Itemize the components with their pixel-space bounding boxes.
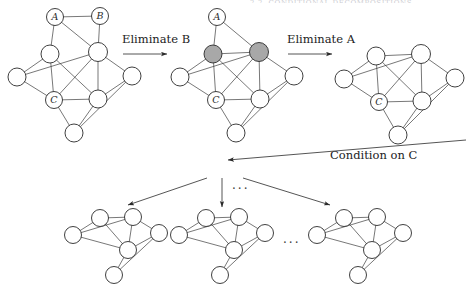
graph-after-eliminating-a-edges [344, 54, 455, 135]
graph-node [171, 68, 189, 86]
graph-node [89, 43, 108, 62]
graph-node [364, 242, 381, 259]
graph-node [41, 45, 59, 63]
graph-node [446, 69, 464, 87]
graph-node [285, 67, 303, 85]
graph-node [8, 68, 26, 86]
conditioned-graph-1-nodes [65, 209, 168, 284]
graph-node [212, 267, 229, 284]
label-eliminate-b: Eliminate B [122, 32, 190, 46]
graph-node [151, 225, 168, 242]
original-graph-nodes: ABC [8, 8, 141, 143]
graph-node [369, 209, 386, 226]
arrow-branch-left [128, 178, 207, 205]
graph-node [257, 225, 274, 242]
graph-after-eliminating-b-nodes: AC [171, 9, 303, 143]
graph-after-eliminating-b-edges [180, 17, 294, 133]
node-label-A: A [213, 11, 221, 22]
conditioned-graph-2-nodes [171, 209, 274, 284]
graph-node [204, 45, 222, 63]
node-label-C: C [50, 94, 58, 105]
graph-node [123, 67, 141, 85]
graph-node [106, 267, 123, 284]
conditioned-graph-3-nodes [309, 209, 412, 284]
graph-node [120, 242, 137, 259]
graph-node [198, 210, 215, 227]
graph-node [227, 124, 245, 142]
graph-node [125, 209, 142, 226]
graph-node [89, 90, 107, 108]
node-label-B: B [96, 10, 104, 21]
vertical-branch-ellipsis: ... [232, 178, 249, 192]
graph-diagram-svg: ABCACC [0, 0, 466, 288]
graph-node [226, 242, 243, 259]
graph-node [171, 227, 188, 244]
figure-canvas: 2.2. CONDITIONAL DECOMPOSITIONS ABCACC E… [0, 0, 466, 288]
graph-node [65, 124, 83, 142]
node-label-A: A [51, 11, 59, 22]
graph-node [92, 210, 109, 227]
arrow-branch-right [243, 178, 330, 205]
nodes-layer: ABCACC [8, 8, 464, 284]
graph-node [412, 45, 431, 64]
graph-node [350, 267, 367, 284]
node-label-C: C [375, 96, 383, 107]
graph-node [395, 225, 412, 242]
label-eliminate-a: Eliminate A [287, 32, 355, 46]
graph-node [65, 227, 82, 244]
label-condition-on-c: Condition on C [330, 148, 417, 162]
edges-layer [17, 16, 455, 275]
graph-node [231, 209, 248, 226]
graph-node [413, 92, 431, 110]
node-label-C: C [212, 94, 220, 105]
graph-node [367, 47, 385, 65]
original-graph-edges [17, 16, 132, 133]
graph-node [250, 43, 269, 62]
graph-node [309, 227, 326, 244]
graph-node [336, 210, 353, 227]
graph-node [251, 90, 269, 108]
graph-after-eliminating-a-nodes: C [335, 45, 464, 145]
graph-node [389, 126, 407, 144]
graph-node [335, 70, 353, 88]
horizontal-graph-ellipsis: ... [283, 232, 300, 246]
